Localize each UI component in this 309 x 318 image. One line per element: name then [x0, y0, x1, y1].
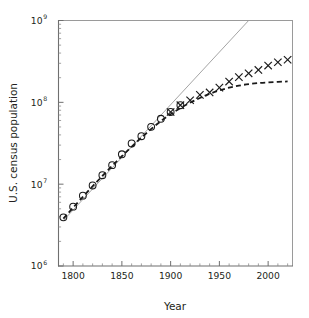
- data-point-cross: [177, 102, 184, 109]
- census-circle-markers: [60, 102, 184, 221]
- x-tick-label: 1900: [159, 270, 183, 281]
- data-point-cross: [264, 62, 271, 69]
- svg-text:10: 10: [31, 15, 43, 26]
- x-tick-label: 2000: [256, 270, 280, 281]
- y-tick-label: 109: [31, 13, 48, 26]
- census-population-chart: 106107108109 18001850190019502000 Year U…: [0, 0, 309, 318]
- data-point-cross: [245, 70, 252, 77]
- svg-text:9: 9: [43, 13, 47, 20]
- svg-text:7: 7: [43, 177, 47, 184]
- plot-frame: [58, 21, 293, 267]
- y-axis-tick-labels: 106107108109: [31, 13, 48, 271]
- y-axis-ticks: [59, 21, 64, 267]
- logistic-fit-curve: [63, 81, 287, 218]
- data-point-cross: [235, 73, 242, 80]
- x-tick-label: 1800: [61, 270, 85, 281]
- exponential-fit-line: [63, 21, 248, 221]
- data-point-cross: [255, 66, 262, 73]
- census-cross-markers: [167, 56, 291, 116]
- y-tick-label: 108: [31, 95, 48, 108]
- data-point-cross: [284, 56, 291, 63]
- data-point-cross: [274, 59, 281, 66]
- svg-text:10: 10: [31, 97, 43, 108]
- figure-container: 106107108109 18001850190019502000 Year U…: [0, 0, 309, 318]
- data-point-cross: [216, 84, 223, 91]
- svg-text:10: 10: [31, 260, 43, 271]
- y-tick-label: 107: [31, 177, 48, 190]
- x-tick-label: 1950: [208, 270, 232, 281]
- y-tick-label: 106: [31, 259, 48, 272]
- x-tick-label: 1850: [110, 270, 134, 281]
- x-axis-tick-labels: 18001850190019502000: [61, 270, 280, 281]
- data-point-circle: [70, 203, 77, 210]
- y-axis-title: U.S. census population: [7, 83, 19, 203]
- x-axis-ticks: [63, 261, 287, 266]
- svg-text:10: 10: [31, 179, 43, 190]
- svg-text:8: 8: [43, 95, 47, 102]
- svg-text:6: 6: [43, 259, 47, 266]
- plot-axes: [58, 20, 293, 267]
- data-point-cross: [225, 78, 232, 85]
- x-axis-title: Year: [163, 300, 187, 312]
